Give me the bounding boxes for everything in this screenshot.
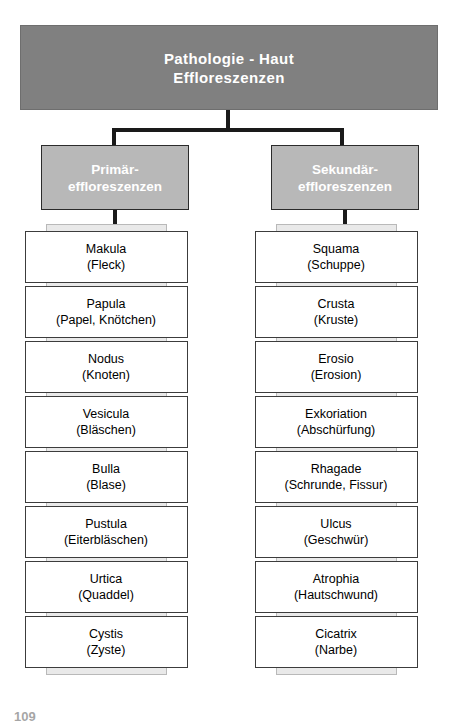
efflorescence-item-translation: (Schrunde, Fissur) [285,477,388,493]
efflorescence-item[interactable]: Vesicula(Bläschen) [25,396,188,448]
page-number: 109 [14,709,36,724]
efflorescence-item-translation: (Zyste) [87,642,126,658]
efflorescence-item-name: Cystis [89,626,123,642]
efflorescence-item[interactable]: Crusta(Kruste) [255,286,418,338]
diagram-title-line-1: Pathologie - Haut [164,49,294,68]
efflorescence-item-translation: (Papel, Knötchen) [56,312,156,328]
efflorescence-item-translation: (Kruste) [314,312,358,328]
efflorescence-item-name: Atrophia [313,571,360,587]
efflorescence-item-translation: (Quaddel) [78,587,134,603]
connector-drop-right [340,128,344,146]
efflorescence-item-translation: (Eiterbläschen) [64,532,148,548]
efflorescence-item-name: Cicatrix [315,626,357,642]
efflorescence-item[interactable]: Nodus(Knoten) [25,341,188,393]
efflorescence-item[interactable]: Exkoriation(Abschürfung) [255,396,418,448]
efflorescence-item-name: Pustula [85,516,127,532]
efflorescence-item[interactable]: Makula(Fleck) [25,231,188,283]
efflorescence-item-name: Crusta [318,296,355,312]
efflorescence-item[interactable]: Pustula(Eiterbläschen) [25,506,188,558]
efflorescence-item-name: Rhagade [311,461,362,477]
efflorescence-item-translation: (Erosion) [311,367,362,383]
efflorescence-item-translation: (Schuppe) [307,257,365,273]
efflorescence-item-name: Papula [87,296,126,312]
efflorescence-item[interactable]: Atrophia(Hautschwund) [255,561,418,613]
efflorescence-item[interactable]: Squama(Schuppe) [255,231,418,283]
column-header-primary: Primär- effloreszenzen [41,145,189,210]
efflorescence-item[interactable]: Bulla(Blase) [25,451,188,503]
efflorescence-item[interactable]: Ulcus(Geschwür) [255,506,418,558]
column-header-secondary-line-1: Sekundär- [312,161,378,178]
efflorescence-item-name: Squama [313,241,360,257]
efflorescence-item[interactable]: Rhagade(Schrunde, Fissur) [255,451,418,503]
connector-horizontal-bar [112,128,344,132]
efflorescence-item[interactable]: Erosio(Erosion) [255,341,418,393]
efflorescence-item-name: Exkoriation [305,406,367,422]
column-primary-items: Makula(Fleck)Papula(Papel, Knötchen)Nodu… [20,224,192,675]
efflorescence-item-translation: (Geschwür) [304,532,369,548]
efflorescence-item[interactable]: Cystis(Zyste) [25,616,188,668]
efflorescence-item-translation: (Hautschwund) [294,587,378,603]
column-secondary-items: Squama(Schuppe)Crusta(Kruste)Erosio(Eros… [250,224,422,675]
efflorescence-item[interactable]: Cicatrix(Narbe) [255,616,418,668]
column-header-secondary-line-2: effloreszenzen [298,178,392,195]
connector-drop-left [112,128,116,146]
efflorescence-item-name: Erosio [318,351,353,367]
column-header-primary-line-2: effloreszenzen [68,178,162,195]
column-header-primary-line-1: Primär- [91,161,138,178]
efflorescence-item[interactable]: Papula(Papel, Knötchen) [25,286,188,338]
efflorescence-item-translation: (Abschürfung) [297,422,376,438]
column-header-secondary: Sekundär- effloreszenzen [271,145,419,210]
diagram-title-line-2: Effloreszenzen [173,68,284,87]
efflorescence-item-name: Urtica [90,571,123,587]
efflorescence-item-name: Ulcus [320,516,351,532]
diagram-title-box: Pathologie - Haut Effloreszenzen [20,25,438,110]
efflorescence-item-name: Makula [86,241,126,257]
efflorescence-item-translation: (Narbe) [315,642,357,658]
efflorescence-item-name: Vesicula [83,406,130,422]
efflorescence-item-name: Bulla [92,461,120,477]
efflorescence-item-name: Nodus [88,351,124,367]
efflorescence-item-translation: (Fleck) [87,257,125,273]
efflorescence-item[interactable]: Urtica(Quaddel) [25,561,188,613]
efflorescence-item-translation: (Knoten) [82,367,130,383]
efflorescence-item-translation: (Bläschen) [76,422,136,438]
efflorescence-item-translation: (Blase) [86,477,126,493]
